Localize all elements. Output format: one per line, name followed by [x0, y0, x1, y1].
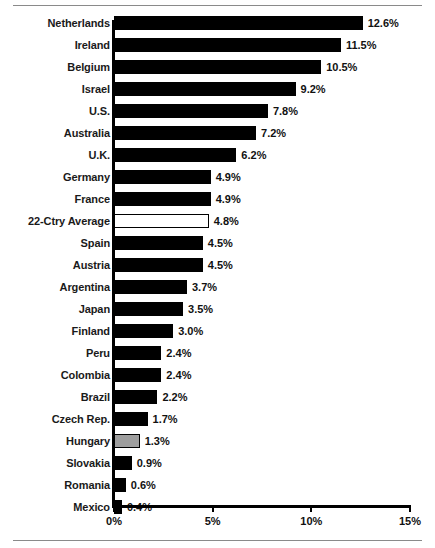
bar-row: Argentina3.7%	[0, 276, 435, 298]
bar-row: Ireland11.5%	[0, 34, 435, 56]
x-tick-label: 15%	[399, 515, 421, 527]
category-label: France	[75, 188, 110, 210]
bar-rows-container: Netherlands12.6%Ireland11.5%Belgium10.5%…	[0, 12, 435, 518]
bar-wrapper: 4.5%	[114, 258, 203, 272]
bar-wrapper: 11.5%	[114, 38, 341, 52]
bar-value-label: 3.5%	[183, 302, 213, 316]
bar	[114, 258, 203, 272]
bar	[114, 192, 211, 206]
bar-row: Czech Rep.1.7%	[0, 408, 435, 430]
bar	[114, 456, 132, 470]
bar-wrapper: 10.5%	[114, 60, 321, 74]
bar-row: Austria4.5%	[0, 254, 435, 276]
bar-row: Japan3.5%	[0, 298, 435, 320]
bar	[114, 434, 140, 448]
bar	[114, 170, 211, 184]
bar-wrapper: 0.6%	[114, 478, 126, 492]
bar-row: Colombia2.4%	[0, 364, 435, 386]
bar-row: France4.9%	[0, 188, 435, 210]
bar	[114, 16, 363, 30]
bar-value-label: 6.2%	[236, 148, 266, 162]
bar-row: Peru2.4%	[0, 342, 435, 364]
category-label: U.S.	[89, 100, 110, 122]
category-label: Austria	[73, 254, 110, 276]
bar	[114, 280, 187, 294]
x-tick-label: 10%	[300, 515, 322, 527]
bar-wrapper: 2.2%	[114, 390, 157, 404]
bar-value-label: 3.7%	[187, 280, 217, 294]
category-label: Mexico	[73, 496, 110, 518]
bar	[114, 104, 268, 118]
bar-wrapper: 4.8%	[114, 214, 209, 228]
bar-wrapper: 4.9%	[114, 192, 211, 206]
category-label: Israel	[82, 78, 110, 100]
x-tick-mark	[409, 505, 411, 512]
bar-value-label: 1.7%	[148, 412, 178, 426]
bar-value-label: 4.5%	[203, 236, 233, 250]
category-label: Romania	[64, 474, 110, 496]
bar-value-label: 11.5%	[341, 38, 377, 52]
bar-value-label: 12.6%	[363, 16, 399, 30]
bar-wrapper: 4.9%	[114, 170, 211, 184]
x-tick-label: 5%	[205, 515, 221, 527]
category-label: Czech Rep.	[52, 408, 110, 430]
category-label: Netherlands	[48, 12, 110, 34]
bar-row: U.S.7.8%	[0, 100, 435, 122]
bar-value-label: 2.4%	[161, 368, 191, 382]
bar	[114, 324, 173, 338]
bar-wrapper: 0.9%	[114, 456, 132, 470]
bar-wrapper: 4.5%	[114, 236, 203, 250]
bar-wrapper: 9.2%	[114, 82, 296, 96]
category-label: Finland	[72, 320, 110, 342]
bar-value-label: 3.0%	[173, 324, 203, 338]
bar-row: 22-Ctry Average4.8%	[0, 210, 435, 232]
bar-value-label: 7.8%	[268, 104, 298, 118]
x-tick-mark	[212, 505, 214, 512]
bar-wrapper: 7.8%	[114, 104, 268, 118]
bar-value-label: 4.5%	[203, 258, 233, 272]
category-label: Germany	[63, 166, 110, 188]
bar-value-label: 2.4%	[161, 346, 191, 360]
bar	[114, 38, 341, 52]
bar-value-label: 2.2%	[157, 390, 187, 404]
bar-wrapper: 3.7%	[114, 280, 187, 294]
bar	[114, 148, 236, 162]
category-label: Australia	[64, 122, 110, 144]
category-label: Belgium	[67, 56, 110, 78]
bar-row: Finland3.0%	[0, 320, 435, 342]
bar-value-label: 4.8%	[209, 214, 239, 228]
bar	[114, 236, 203, 250]
bar	[114, 478, 126, 492]
bottom-divider-rule	[13, 540, 422, 541]
category-label: Japan	[79, 298, 110, 320]
bar-row: Slovakia0.9%	[0, 452, 435, 474]
bar	[114, 412, 148, 426]
bar-wrapper: 2.4%	[114, 368, 161, 382]
bar-row: Australia7.2%	[0, 122, 435, 144]
category-label: Hungary	[66, 430, 110, 452]
bar-wrapper: 6.2%	[114, 148, 236, 162]
category-label: Brazil	[81, 386, 110, 408]
category-label: Spain	[81, 232, 110, 254]
bar-value-label: 10.5%	[321, 60, 357, 74]
category-label: U.K.	[88, 144, 110, 166]
y-axis-spine	[112, 20, 115, 508]
bar	[114, 60, 321, 74]
bar-row: Netherlands12.6%	[0, 12, 435, 34]
bar-wrapper: 1.7%	[114, 412, 148, 426]
bar-row: Hungary1.3%	[0, 430, 435, 452]
bar	[114, 126, 256, 140]
bar-row: Romania0.6%	[0, 474, 435, 496]
bar-value-label: 4.9%	[211, 192, 241, 206]
bar-wrapper: 3.5%	[114, 302, 183, 316]
x-axis-line	[112, 505, 411, 508]
bar	[114, 82, 296, 96]
bar	[114, 214, 209, 228]
bar	[114, 302, 183, 316]
bar-wrapper: 12.6%	[114, 16, 363, 30]
bar-row: Germany4.9%	[0, 166, 435, 188]
bar	[114, 346, 161, 360]
bar-row: Spain4.5%	[0, 232, 435, 254]
bar-value-label: 7.2%	[256, 126, 286, 140]
bar-row: Brazil2.2%	[0, 386, 435, 408]
